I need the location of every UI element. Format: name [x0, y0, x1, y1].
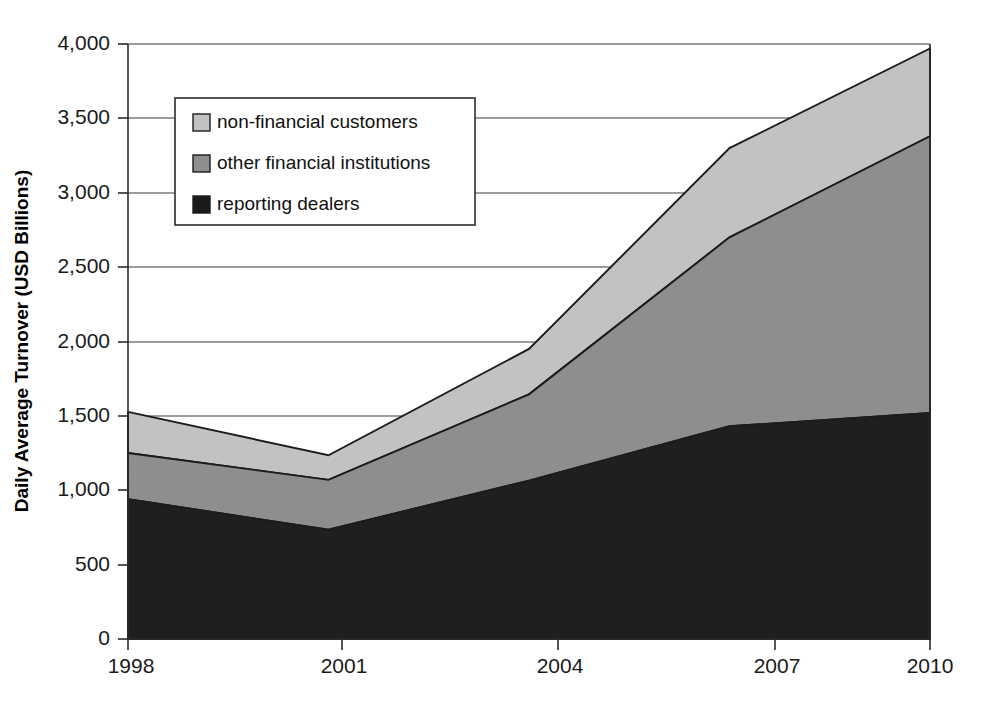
- x-tick-label: 2001: [321, 654, 368, 677]
- y-tick-label: 3,000: [57, 180, 110, 203]
- legend-swatch-other-financial-institutions: [193, 155, 210, 172]
- legend-swatch-non-financial-customers: [193, 114, 210, 131]
- y-tick-label: 2,000: [57, 329, 110, 352]
- y-axis-title: Daily Average Turnover (USD Billions): [11, 170, 32, 512]
- y-tick-label: 1,000: [57, 477, 110, 500]
- legend-swatch-reporting-dealers: [193, 196, 210, 213]
- chart-figure: 4,000 3,500 3,000 2,500 2,000 1,500 1,00…: [0, 0, 983, 712]
- legend: non-financial customers other financial …: [175, 98, 475, 225]
- x-tick-label: 1998: [108, 654, 155, 677]
- y-tick-label: 2,500: [57, 254, 110, 277]
- y-tick-label: 1,500: [57, 403, 110, 426]
- y-tick-marks: [118, 44, 128, 639]
- legend-label-reporting-dealers: reporting dealers: [217, 193, 360, 214]
- y-tick-label: 0: [98, 626, 110, 649]
- legend-label-non-financial-customers: non-financial customers: [217, 111, 418, 132]
- y-tick-label: 4,000: [57, 31, 110, 54]
- x-tick-marks: [128, 639, 930, 650]
- x-tick-label: 2004: [537, 654, 584, 677]
- x-tick-label: 2010: [907, 654, 954, 677]
- y-tick-labels: 4,000 3,500 3,000 2,500 2,000 1,500 1,00…: [57, 31, 110, 649]
- y-tick-label: 3,500: [57, 105, 110, 128]
- y-tick-label: 500: [75, 552, 110, 575]
- legend-label-other-financial-institutions: other financial institutions: [217, 152, 430, 173]
- x-tick-label: 2007: [754, 654, 801, 677]
- x-tick-labels: 1998 2001 2004 2007 2010: [108, 654, 954, 677]
- area-chart-canvas: 4,000 3,500 3,000 2,500 2,000 1,500 1,00…: [0, 0, 983, 712]
